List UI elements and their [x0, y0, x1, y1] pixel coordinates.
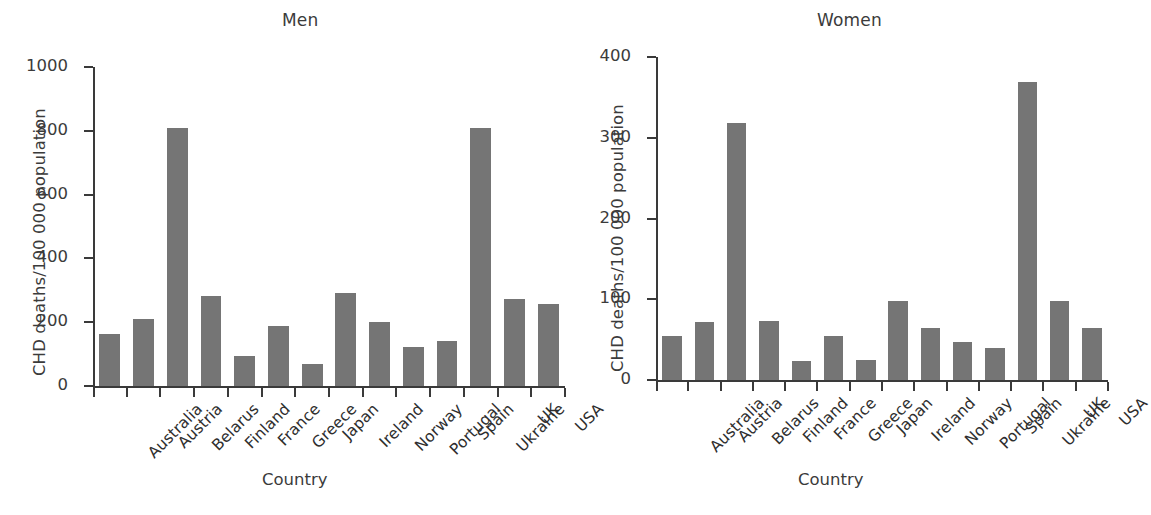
bar	[234, 356, 255, 386]
x-axis-label-men: Country	[262, 470, 328, 489]
y-axis-tick-label: 200	[600, 208, 632, 227]
x-axis-tick	[159, 388, 161, 397]
x-axis-tick	[93, 388, 95, 397]
x-axis-tick	[362, 388, 364, 397]
x-axis-tick	[656, 382, 658, 391]
x-axis-tick	[1010, 382, 1012, 391]
x-axis-tick	[463, 388, 465, 397]
y-axis-tick-label: 600	[37, 184, 69, 203]
x-axis-tick	[720, 382, 722, 391]
bar	[133, 319, 154, 386]
x-axis-tick	[564, 388, 566, 397]
bar	[921, 328, 940, 380]
x-axis-tick	[227, 388, 229, 397]
x-axis-tick	[294, 388, 296, 397]
y-axis-tick-label: 800	[37, 120, 69, 139]
y-axis-tick: 400	[84, 257, 93, 259]
bar	[538, 304, 559, 386]
bar	[437, 341, 458, 386]
x-axis-label-women: Country	[798, 470, 864, 489]
panel-women: Women CHD deaths/100 000 population 0100…	[580, 0, 1137, 515]
panel-men: Men CHD deaths/100 000 population 020040…	[0, 0, 580, 515]
x-axis-tick-label: USA	[1115, 394, 1151, 430]
bar	[1050, 301, 1069, 380]
bar	[268, 326, 289, 386]
bar	[1018, 82, 1037, 380]
x-axis-tick	[978, 382, 980, 391]
bar	[201, 296, 222, 386]
x-axis-tick	[816, 382, 818, 391]
panel-title-men: Men	[282, 10, 319, 30]
y-axis-line-women	[656, 57, 658, 380]
y-axis-tick-label: 100	[600, 288, 632, 307]
bar	[167, 128, 188, 386]
bar	[888, 301, 907, 380]
x-axis-tick	[752, 382, 754, 391]
x-axis-tick	[881, 382, 883, 391]
x-axis-tick	[913, 382, 915, 391]
x-axis-tick	[784, 382, 786, 391]
bar	[662, 336, 681, 380]
y-axis-label-men: CHD deaths/100 000 population	[30, 108, 49, 376]
y-axis-tick: 1000	[84, 66, 93, 68]
y-axis-tick-label: 0	[621, 369, 632, 388]
y-axis-tick: 300	[647, 137, 656, 139]
bar	[856, 360, 875, 380]
x-axis-tick	[328, 388, 330, 397]
x-axis-tick	[497, 388, 499, 397]
panel-title-women: Women	[817, 10, 882, 30]
bar	[403, 347, 424, 386]
bar	[985, 348, 1004, 380]
y-axis-tick: 0	[84, 385, 93, 387]
x-axis-tick	[395, 388, 397, 397]
bar	[302, 364, 323, 386]
bar	[759, 321, 778, 380]
y-axis-tick: 400	[647, 56, 656, 58]
bar	[470, 128, 491, 386]
y-axis-tick: 800	[84, 130, 93, 132]
bar	[1082, 328, 1101, 380]
bar	[335, 293, 356, 386]
x-axis-tick	[1075, 382, 1077, 391]
x-axis-tick	[687, 382, 689, 391]
y-axis-tick-label: 400	[600, 46, 632, 65]
y-axis-tick: 0	[647, 379, 656, 381]
x-axis-tick	[530, 388, 532, 397]
y-axis-tick-label: 400	[37, 248, 69, 267]
bar	[695, 322, 714, 380]
x-axis-tick	[261, 388, 263, 397]
y-axis-tick: 600	[84, 194, 93, 196]
bar	[824, 336, 843, 380]
y-axis-tick-label: 1000	[26, 56, 68, 75]
bar	[727, 123, 746, 380]
y-axis-tick: 100	[647, 298, 656, 300]
y-axis-tick-label: 200	[37, 311, 69, 330]
plot-area-women: 0100200300400AustraliaAustriaBelarusFinl…	[656, 57, 1108, 380]
bar	[953, 342, 972, 380]
x-axis-tick	[849, 382, 851, 391]
y-axis-tick: 200	[84, 321, 93, 323]
x-axis-tick	[1107, 382, 1109, 391]
bar	[369, 322, 390, 386]
y-axis-tick-label: 0	[58, 375, 69, 394]
bar	[792, 361, 811, 380]
bar	[504, 299, 525, 386]
x-axis-tick	[126, 388, 128, 397]
x-axis-tick	[429, 388, 431, 397]
x-axis-tick	[193, 388, 195, 397]
x-axis-tick	[946, 382, 948, 391]
y-axis-tick-label: 300	[600, 127, 632, 146]
bar	[99, 334, 120, 386]
y-axis-line-men	[93, 67, 95, 386]
y-axis-tick: 200	[647, 218, 656, 220]
plot-area-men: 02004006008001000AustraliaAustriaBelarus…	[93, 67, 565, 386]
x-axis-tick	[1042, 382, 1044, 391]
